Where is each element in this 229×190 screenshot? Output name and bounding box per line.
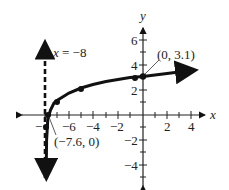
y-tick-label: −2	[124, 133, 138, 148]
y-tick-label: 6	[131, 33, 138, 48]
annotation-leader	[49, 117, 56, 135]
x-axis-label: x	[209, 107, 216, 122]
x-tick-label: −6	[62, 119, 76, 134]
y-tick-label: 4	[131, 58, 138, 73]
point-label-y-intercept: (0, 3.1)	[157, 47, 195, 62]
annotation-leader	[145, 60, 159, 74]
x-tick-label: 2	[164, 119, 171, 134]
log-function-graph: − −6 −4 −2 2 4 6 4 2 −2 −4 x y x = −8 (0…	[0, 0, 229, 190]
y-axis-label: y	[138, 8, 146, 23]
point-label-x-intercept: (−7.6, 0)	[54, 134, 99, 149]
x-tick-label: −4	[86, 119, 100, 134]
x-tick-label: −2	[110, 119, 124, 134]
asymptote-label: x = −8	[52, 45, 86, 60]
y-tick-label: 2	[131, 83, 138, 98]
y-tick-label: −4	[124, 158, 138, 173]
x-tick-label: −	[35, 119, 42, 134]
x-tick-label: 4	[188, 119, 195, 134]
